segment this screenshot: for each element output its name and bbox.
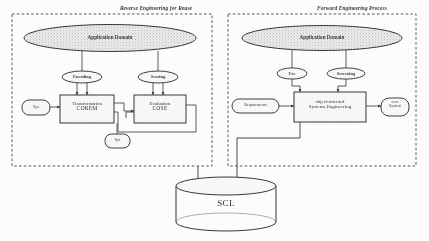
diagram-vector-layer <box>0 0 429 241</box>
application-domain-ellipse-left <box>24 25 196 52</box>
relation-ellipse-screening <box>327 68 365 79</box>
node-legacy-system <box>22 100 60 115</box>
connector-transformation-to-evaluation <box>114 103 134 111</box>
figure-canvas: Reverse Engineering for Reuse Forward En… <box>0 0 429 241</box>
node-new-system <box>366 98 409 116</box>
relation-ellipse-encoding <box>62 71 102 83</box>
connector-screening-to-main-box <box>338 79 346 92</box>
connector-encoding-to-transformation <box>77 83 87 95</box>
box-evaluation-cose <box>134 95 186 123</box>
box-oo-systems-engineering <box>294 92 366 122</box>
relation-ellipse-use <box>277 68 307 79</box>
connector-forward-to-repository <box>237 122 300 180</box>
connector-scoring-to-evaluation <box>153 83 163 95</box>
repository-cylinder-scl <box>176 177 276 231</box>
connector-use-to-main-box <box>292 79 300 92</box>
application-domain-ellipse-right <box>242 26 402 51</box>
relation-ellipse-scoring <box>138 71 178 83</box>
node-sys-lower <box>105 123 130 148</box>
box-transformation-corem <box>60 95 114 123</box>
node-requirements <box>232 99 294 113</box>
